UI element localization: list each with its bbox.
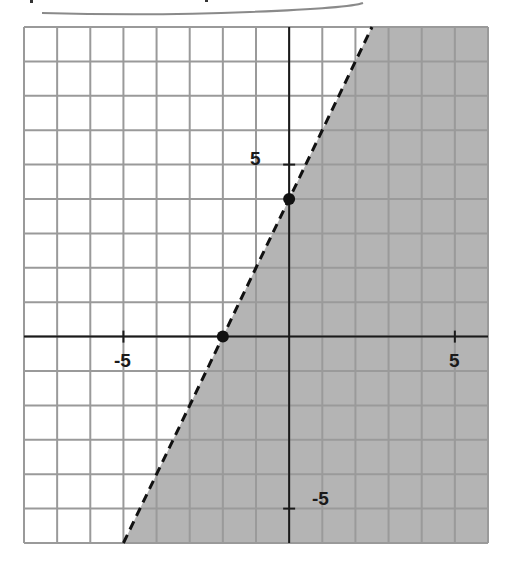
x-tick-label-pos5: 5 [449, 350, 460, 372]
y-tick-label-neg5: -5 [312, 488, 329, 510]
inequality-graph [0, 0, 505, 562]
intercept-point [217, 331, 229, 343]
x-tick-label-neg5: -5 [114, 350, 131, 372]
intercept-point [283, 193, 295, 205]
y-tick-label-pos5: 5 [250, 148, 261, 170]
